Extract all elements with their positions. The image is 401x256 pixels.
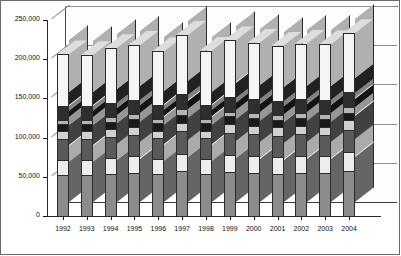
bar-segment	[295, 134, 307, 156]
bar-segment	[152, 159, 164, 175]
bar-segment	[81, 131, 93, 139]
bar-segment	[57, 124, 69, 131]
bar-segment	[176, 131, 188, 154]
bar-segment	[343, 120, 355, 129]
bar-segment	[224, 172, 236, 216]
bar-segment	[128, 156, 140, 172]
bar-segment	[105, 129, 117, 137]
bar-segment	[57, 54, 69, 106]
x-axis-tick-label: 2004	[335, 225, 363, 232]
bar-segment	[224, 116, 236, 124]
x-axis-tick-mark	[134, 217, 135, 220]
bar-segment	[128, 45, 140, 100]
bar-segment	[81, 124, 93, 131]
bar-segment	[248, 156, 260, 172]
bar-segment	[272, 120, 284, 128]
bar-segment	[224, 155, 236, 172]
bar-segment	[319, 135, 331, 156]
bar-segment	[224, 124, 236, 133]
bar-segment	[319, 100, 331, 114]
bar-segment	[200, 174, 212, 216]
y-axis-tick-label: 0	[0, 211, 40, 218]
bar-segment	[200, 119, 212, 124]
bar-segment	[57, 106, 69, 119]
bar-segment	[295, 99, 307, 113]
bar-segment	[57, 160, 69, 176]
bar-segment	[105, 174, 117, 216]
x-axis-tick-mark	[325, 217, 326, 220]
bar-segment	[248, 43, 260, 99]
bar-segment	[176, 35, 188, 95]
bar-segment	[105, 48, 117, 103]
bar-segment	[319, 119, 331, 127]
bar-segment	[176, 171, 188, 216]
bar-segment	[176, 154, 188, 171]
bar-segment	[105, 117, 117, 122]
bar-segment	[152, 138, 164, 158]
bar-segment	[272, 46, 284, 101]
bar-segment	[152, 105, 164, 118]
bar-segment	[224, 40, 236, 96]
bar-segment	[272, 115, 284, 120]
bar-segment	[200, 105, 212, 118]
bar-segment	[343, 33, 355, 92]
bar-segment	[319, 114, 331, 119]
bar-segment	[105, 137, 117, 158]
bar-segment	[200, 131, 212, 139]
y-axis-tick-label: 150,000	[0, 93, 40, 100]
bar-segment	[200, 123, 212, 130]
bar-segment	[248, 118, 260, 126]
bar-segment	[295, 126, 307, 135]
x-axis-tick-mark	[158, 217, 159, 220]
x-axis-tick-mark	[301, 217, 302, 220]
x-axis-tick-mark	[87, 217, 88, 220]
bar-segment	[343, 152, 355, 170]
y-axis-line	[47, 20, 48, 217]
bar-segment	[152, 119, 164, 124]
bar-segment	[272, 157, 284, 173]
x-axis-tick-mark	[63, 217, 64, 220]
y-axis-tick-label: 200,000	[0, 54, 40, 61]
y-axis-tick-label: 100,000	[0, 133, 40, 140]
bar-segment	[272, 127, 284, 136]
bar-segment	[105, 103, 117, 117]
x-axis-tick-mark	[182, 217, 183, 220]
x-axis-tick-mark	[254, 217, 255, 220]
bar-segment	[105, 158, 117, 174]
bar-segment	[319, 156, 331, 172]
bar-segment	[81, 106, 93, 119]
bar-segment	[128, 173, 140, 216]
bar-segment	[295, 156, 307, 172]
x-axis-tick-mark	[111, 217, 112, 220]
bar-segment	[343, 113, 355, 121]
bar-segment	[176, 123, 188, 132]
bar-segment	[200, 51, 212, 106]
bar-segment	[57, 131, 69, 139]
x-axis-tick-mark	[349, 217, 350, 220]
bar-segment	[295, 113, 307, 118]
bar-segment	[200, 138, 212, 158]
bar-segment	[224, 133, 236, 155]
bar-segment	[128, 100, 140, 114]
bar-segment	[248, 113, 260, 118]
bar-segment	[81, 175, 93, 216]
bar-segment	[128, 114, 140, 119]
bar-segment	[81, 55, 93, 106]
x-axis-line	[47, 216, 381, 217]
chart-image: 050,000100,000150,000200,000250,00019921…	[0, 0, 401, 256]
bar-segment	[128, 119, 140, 127]
bar-segment	[105, 122, 117, 129]
bar-segment	[57, 120, 69, 125]
bar-segment	[176, 94, 188, 109]
bar-segment	[295, 118, 307, 126]
bar-segment	[248, 126, 260, 135]
y-gridline	[65, 6, 397, 7]
bar-segment	[343, 92, 355, 107]
bar-segment	[319, 44, 331, 100]
bar-segment	[176, 115, 188, 123]
y-axis-tick-label: 50,000	[0, 172, 40, 179]
bar-segment	[152, 51, 164, 105]
bar-segment	[81, 120, 93, 125]
bar-segment	[176, 109, 188, 114]
bar-segment	[224, 97, 236, 112]
